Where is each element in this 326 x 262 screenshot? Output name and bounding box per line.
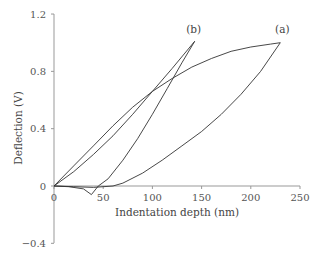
series-line bbox=[54, 43, 280, 186]
y-tick-label: 0 bbox=[40, 181, 46, 192]
y-tick-label: −0.4 bbox=[22, 238, 46, 249]
x-tick-label: 250 bbox=[290, 192, 309, 203]
x-tick-label: 50 bbox=[97, 192, 110, 203]
chart-svg: 1.20.80.40−0.4 050100150200250 (a)(b) In… bbox=[0, 0, 326, 262]
y-tick-label: 0.4 bbox=[30, 123, 46, 134]
series-annotation: (a) bbox=[275, 23, 289, 35]
x-tick-label: 0 bbox=[51, 192, 57, 203]
y-tick-label: 1.2 bbox=[30, 9, 46, 20]
y-tick-label: 0.8 bbox=[30, 66, 46, 77]
x-axis-label: Indentation depth (nm) bbox=[115, 206, 239, 218]
y-axis-label: Deflection (V) bbox=[12, 91, 24, 165]
x-tick-label: 150 bbox=[192, 192, 211, 203]
x-tick-label: 100 bbox=[143, 192, 162, 203]
x-tick-label: 200 bbox=[241, 192, 260, 203]
series-line bbox=[54, 43, 280, 188]
chart: 1.20.80.40−0.4 050100150200250 (a)(b) In… bbox=[0, 0, 326, 262]
series-line bbox=[54, 41, 195, 194]
series-annotation: (b) bbox=[186, 23, 201, 35]
